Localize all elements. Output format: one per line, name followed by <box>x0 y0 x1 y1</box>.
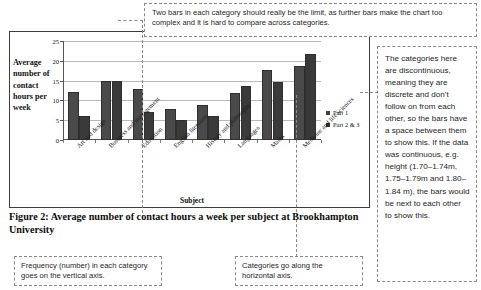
x-tick-mark <box>289 140 290 143</box>
x-axis-title: Subject <box>63 196 321 205</box>
x-tick-mark <box>63 140 64 143</box>
annotation-bottom-left: Frequency (number) in each category goes… <box>14 256 162 286</box>
annotation-bottom-middle-text: Categories go along the horizontal axis. <box>242 261 356 281</box>
gridline <box>63 41 321 42</box>
legend-label: Part 2 & 3 <box>333 121 359 128</box>
y-axis-title: Average number of contact hours per week <box>13 57 59 114</box>
x-tick-mark <box>160 140 161 143</box>
y-tick-label: 25 <box>52 38 59 45</box>
leader-line-top-vertical <box>142 20 143 218</box>
gridline <box>63 61 321 62</box>
annotation-top: Two bars in each category should really … <box>144 3 477 37</box>
x-tick-mark <box>192 140 193 143</box>
bar <box>305 54 316 140</box>
annotation-right-text: The categories here are discontinuous, m… <box>385 53 470 222</box>
leader-line-right-horizontal <box>360 92 378 93</box>
x-tick-mark <box>128 140 129 143</box>
bar <box>273 82 284 140</box>
figure-caption: Figure 2: Average number of contact hour… <box>9 211 371 236</box>
y-tick-label: 0 <box>56 137 59 144</box>
annotation-bottom-middle: Categories go along the horizontal axis. <box>235 256 363 286</box>
annotation-right: The categories here are discontinuous, m… <box>377 46 477 282</box>
figure-page: Average number of contact hours per week… <box>0 0 481 290</box>
y-axis-line <box>63 41 64 140</box>
x-tick-mark <box>321 140 322 143</box>
leader-line-top-horizontal <box>118 20 143 21</box>
x-tick-mark <box>257 140 258 143</box>
bar <box>262 70 273 140</box>
bar <box>101 81 112 140</box>
bar <box>165 109 176 140</box>
x-tick-mark <box>224 140 225 143</box>
annotation-bottom-left-text: Frequency (number) in each category goes… <box>21 261 155 281</box>
bar <box>68 92 79 140</box>
annotation-top-text: Two bars in each category should really … <box>152 8 469 28</box>
y-tick-label: 5 <box>56 117 59 124</box>
x-tick-mark <box>95 140 96 143</box>
